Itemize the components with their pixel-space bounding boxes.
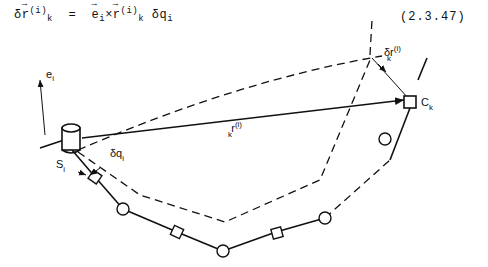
r-k-label: r(i)k <box>228 120 242 139</box>
joint-cylinder-icon <box>62 124 80 153</box>
delta-q-i-label: δqi <box>110 147 124 163</box>
c-k-body-icon <box>404 96 416 108</box>
kinematic-chain-diagram: ei r(i)k δr(i)k Ck Si δqi <box>0 0 488 267</box>
r-k-arrow-icon <box>82 100 404 138</box>
e-i-label: ei <box>46 68 54 83</box>
delta-r-k-arrow-icon <box>378 64 386 72</box>
chain-squares <box>88 170 283 239</box>
c-k-label: Ck <box>421 96 434 112</box>
s-i-label: Si <box>56 158 65 174</box>
e-i-arrow-icon <box>40 80 45 135</box>
delta-r-k-label: δr(i)k <box>384 44 401 63</box>
delta-r-k-line <box>372 58 408 98</box>
solid-chain <box>40 58 427 251</box>
s-i-arrow-icon <box>78 172 86 175</box>
